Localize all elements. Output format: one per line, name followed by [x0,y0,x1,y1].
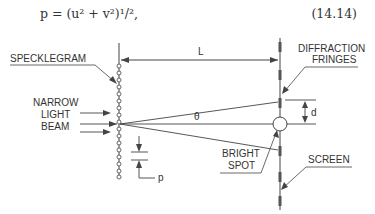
screen-label: SCREEN [308,154,350,165]
distance-label: L [198,46,204,57]
speckle-diagram: L θ d p SPECKLEGRAM NARROW LIGHT BEAM [0,0,375,214]
specklegram-label: SPECKLEGRAM [10,53,86,64]
bright-label: BRIGHT [222,148,260,159]
specklegram-plate [117,43,121,179]
fringe-spacing-label: d [311,107,317,118]
fringes-label: FRINGES [312,54,357,65]
beam-label: BEAM [41,121,69,132]
pitch-label: p [158,172,164,183]
light-label: LIGHT [41,109,70,120]
pitch-dimension [131,136,155,178]
diffraction-label: DIFFRACTION [298,43,365,54]
angle-label: θ [194,111,200,122]
bright-spot [273,117,287,131]
narrow-label: NARROW [33,97,79,108]
spot-label: SPOT [228,160,255,171]
